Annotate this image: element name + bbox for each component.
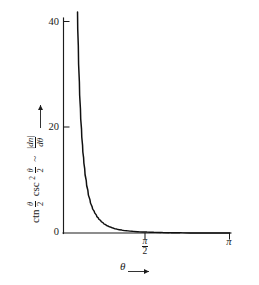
- data-curve-ctn-csc2: [78, 12, 230, 233]
- chart-canvas: [0, 0, 259, 285]
- figure-container: 40 20 0 π 2 π θ ctn θ 2 csc 2 θ 2 ~: [0, 0, 259, 285]
